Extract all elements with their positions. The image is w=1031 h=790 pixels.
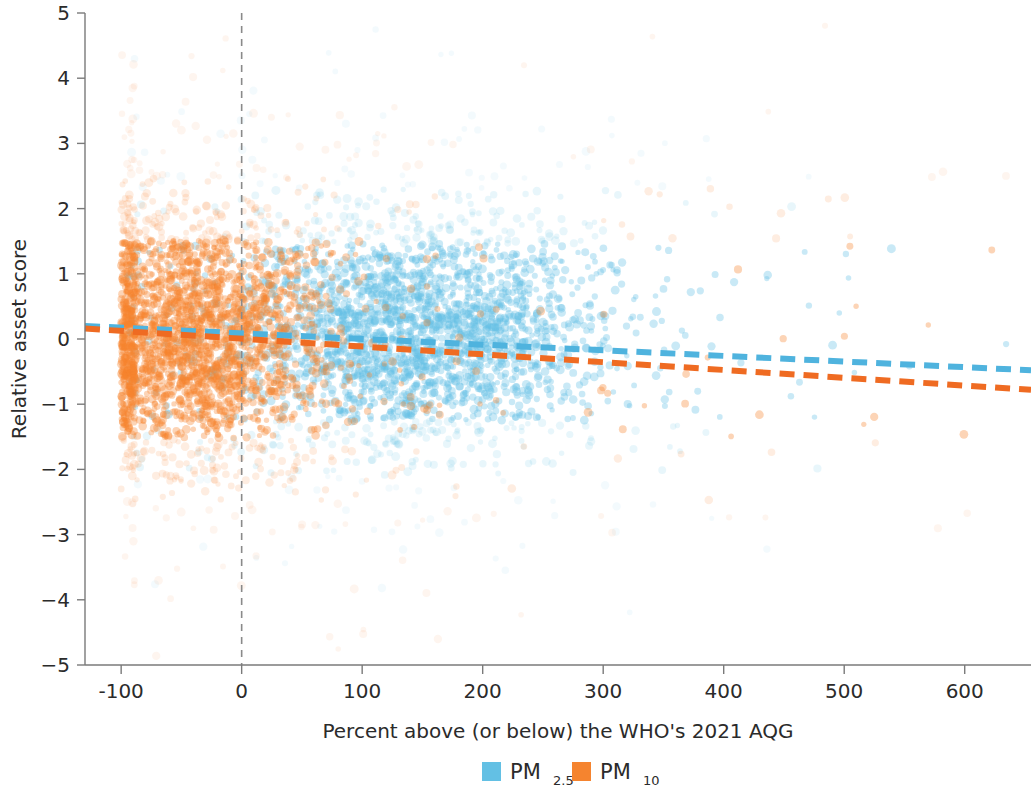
x-tick-label: 0 (235, 679, 248, 703)
y-axis-title: Relative asset score (7, 239, 31, 439)
y-tick-label: −5 (41, 653, 70, 677)
chart-canvas: −5−4−3−2−1012345-1000100200300400500600P… (0, 0, 1031, 790)
legend-sublabel-pm25: 2.5 (553, 773, 574, 788)
y-tick-label: 5 (57, 1, 70, 25)
legend-sublabel-pm10: 10 (643, 773, 660, 788)
y-tick-label: −2 (41, 457, 70, 481)
x-tick-label: 400 (705, 679, 743, 703)
x-tick-label: 600 (946, 679, 984, 703)
y-tick-label: 0 (57, 327, 70, 351)
legend-label-pm10: PM (600, 760, 631, 784)
y-tick-label: 1 (57, 262, 70, 286)
y-tick-label: −3 (41, 523, 70, 547)
x-tick-label: 500 (825, 679, 863, 703)
x-axis-title: Percent above (or below) the WHO's 2021 … (322, 719, 793, 743)
y-tick-label: −4 (41, 588, 70, 612)
y-tick-label: 2 (57, 197, 70, 221)
y-tick-label: −1 (41, 392, 70, 416)
legend-swatch-pm25 (482, 762, 501, 781)
x-tick-label: -100 (98, 679, 143, 703)
scatter-chart-figure: −5−4−3−2−1012345-1000100200300400500600P… (0, 0, 1031, 790)
x-tick-label: 300 (584, 679, 622, 703)
legend-swatch-pm10 (572, 762, 591, 781)
x-tick-label: 200 (464, 679, 502, 703)
x-tick-label: 100 (343, 679, 381, 703)
y-tick-label: 3 (57, 131, 70, 155)
y-tick-label: 4 (57, 66, 70, 90)
chart-legend: PM 2.5 PM 10 (0, 752, 1031, 790)
scatter-points-layer (117, 23, 1010, 660)
legend-label-pm25: PM (510, 760, 541, 784)
